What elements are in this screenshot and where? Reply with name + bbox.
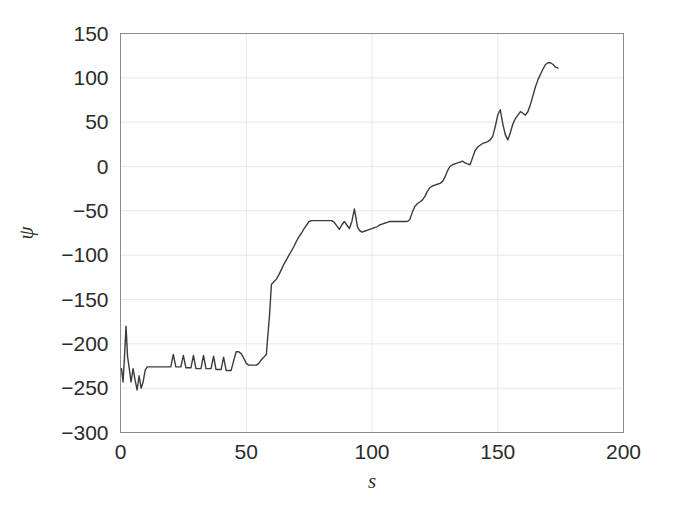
y-tick-label: −300	[61, 421, 108, 444]
y-tick-label: −200	[61, 332, 108, 355]
y-tick-label: 0	[97, 155, 109, 178]
y-tick-label: −150	[61, 288, 108, 311]
x-axis-label: s	[368, 469, 376, 493]
y-tick-label: 150	[73, 22, 108, 45]
x-tick-label: 50	[235, 440, 258, 463]
x-tick-label: 100	[354, 440, 389, 463]
line-chart: 150100500−50−100−150−200−250−300 0501001…	[0, 0, 673, 507]
data-series-line	[122, 63, 559, 390]
x-tick-label: 150	[480, 440, 515, 463]
x-tick-labels: 050100150200	[115, 440, 641, 463]
y-axis-label: ψ	[14, 226, 38, 240]
y-tick-label: −100	[61, 243, 108, 266]
y-tick-labels: 150100500−50−100−150−200−250−300	[61, 22, 108, 444]
y-tick-label: 100	[73, 66, 108, 89]
y-tick-label: 50	[85, 110, 108, 133]
y-tick-label: −250	[61, 376, 108, 399]
vertical-gridlines	[246, 34, 498, 433]
chart-figure: 150100500−50−100−150−200−250−300 0501001…	[0, 0, 673, 507]
y-tick-label: −50	[73, 199, 109, 222]
x-tick-label: 0	[115, 440, 127, 463]
x-tick-label: 200	[606, 440, 641, 463]
